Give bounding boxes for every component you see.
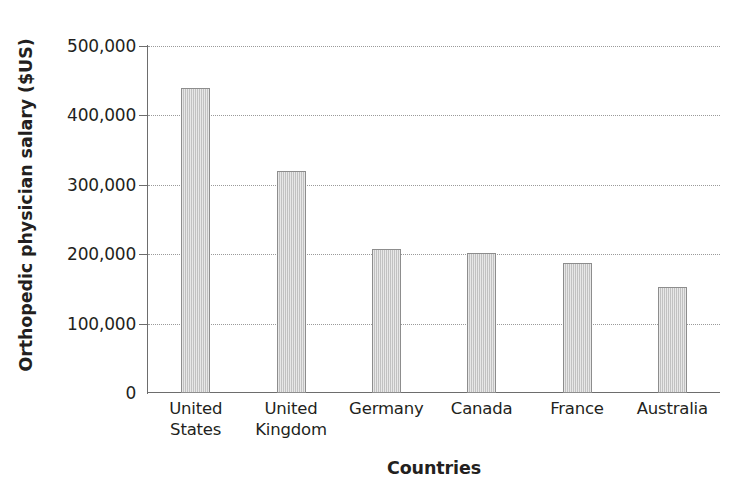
bar — [563, 263, 592, 393]
x-axis-category-label-line: Australia — [612, 398, 732, 419]
y-axis-tick-label: 200,000 — [16, 244, 136, 264]
gridline — [148, 254, 720, 255]
bar-chart-figure: Orthopedic physician salary ($US) 0100,0… — [0, 0, 754, 486]
gridline — [148, 46, 720, 47]
y-axis-tick-label: 500,000 — [16, 36, 136, 56]
y-axis-tick-label: 100,000 — [16, 314, 136, 334]
bar — [181, 88, 210, 393]
y-axis-tick-label: 300,000 — [16, 175, 136, 195]
bar — [277, 171, 306, 393]
x-axis-category-label: Australia — [612, 398, 732, 419]
gridline — [148, 324, 720, 325]
bar — [467, 253, 496, 393]
x-axis-title: Countries — [148, 458, 720, 478]
y-axis-tick-label: 0 — [16, 383, 136, 403]
y-axis-tick-labels: 0100,000200,000300,000400,000500,000 — [12, 0, 136, 486]
plot-area — [148, 46, 720, 393]
x-axis-category-label-line: Kingdom — [231, 419, 351, 440]
gridline — [148, 185, 720, 186]
bar — [372, 249, 401, 393]
gridline — [148, 115, 720, 116]
bar — [658, 287, 687, 393]
y-axis-tick-label: 400,000 — [16, 105, 136, 125]
